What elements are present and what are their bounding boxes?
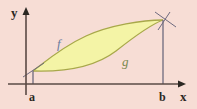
x-axis-arrowhead [178, 81, 186, 88]
area-between-curves-fill [33, 20, 163, 71]
tick-label-b: b [159, 90, 166, 104]
figure-svg: y x a b f g [0, 0, 197, 109]
curve-label-g: g [122, 54, 129, 69]
y-axis-arrowhead [23, 7, 30, 15]
tick-label-a: a [29, 90, 35, 104]
x-axis-label: x [180, 89, 187, 104]
y-axis-label: y [11, 5, 18, 20]
figure-canvas: y x a b f g [0, 0, 197, 109]
